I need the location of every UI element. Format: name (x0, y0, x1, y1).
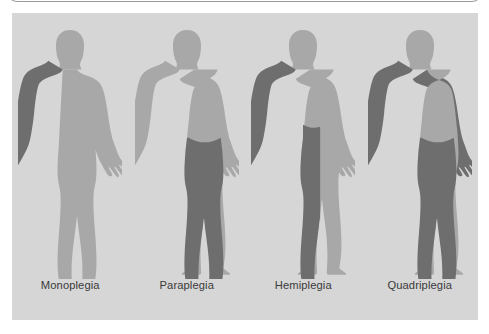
figure-label-quadriplegia: Quadriplegia (362, 279, 479, 291)
figure-cell-monoplegia: Monoplegia (12, 13, 129, 320)
figure-cell-quadriplegia: Quadriplegia (362, 13, 479, 320)
right-arm-affected (368, 61, 413, 168)
body-silhouette-monoplegia (18, 27, 122, 279)
body-base-paraplegia (135, 30, 239, 279)
figure-label-monoplegia: Monoplegia (12, 279, 129, 291)
figure-cell-paraplegia: Paraplegia (129, 13, 246, 320)
body-silhouette-quadriplegia (368, 27, 472, 279)
figure-label-paraplegia: Paraplegia (129, 279, 246, 291)
body-base-quadriplegia (368, 30, 472, 279)
figure-label-hemiplegia: Hemiplegia (245, 279, 362, 291)
body-base-monoplegia (18, 30, 122, 279)
body-silhouette-paraplegia (135, 27, 239, 279)
figure-cell-hemiplegia: Hemiplegia (245, 13, 362, 320)
body-silhouette-hemiplegia (251, 27, 355, 279)
body-base-hemiplegia (251, 30, 355, 279)
right-arm-affected (18, 61, 63, 168)
callout-box-bottom-edge (6, 0, 483, 2)
paralysis-types-diagram-panel: Monoplegia Paraplegia (12, 13, 478, 320)
right-arm-affected (251, 61, 296, 168)
